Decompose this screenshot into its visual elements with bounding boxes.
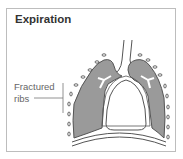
chest-diagram <box>0 0 183 159</box>
heart <box>106 80 146 130</box>
annotation-leader <box>34 83 63 113</box>
diaphragm <box>72 133 166 146</box>
